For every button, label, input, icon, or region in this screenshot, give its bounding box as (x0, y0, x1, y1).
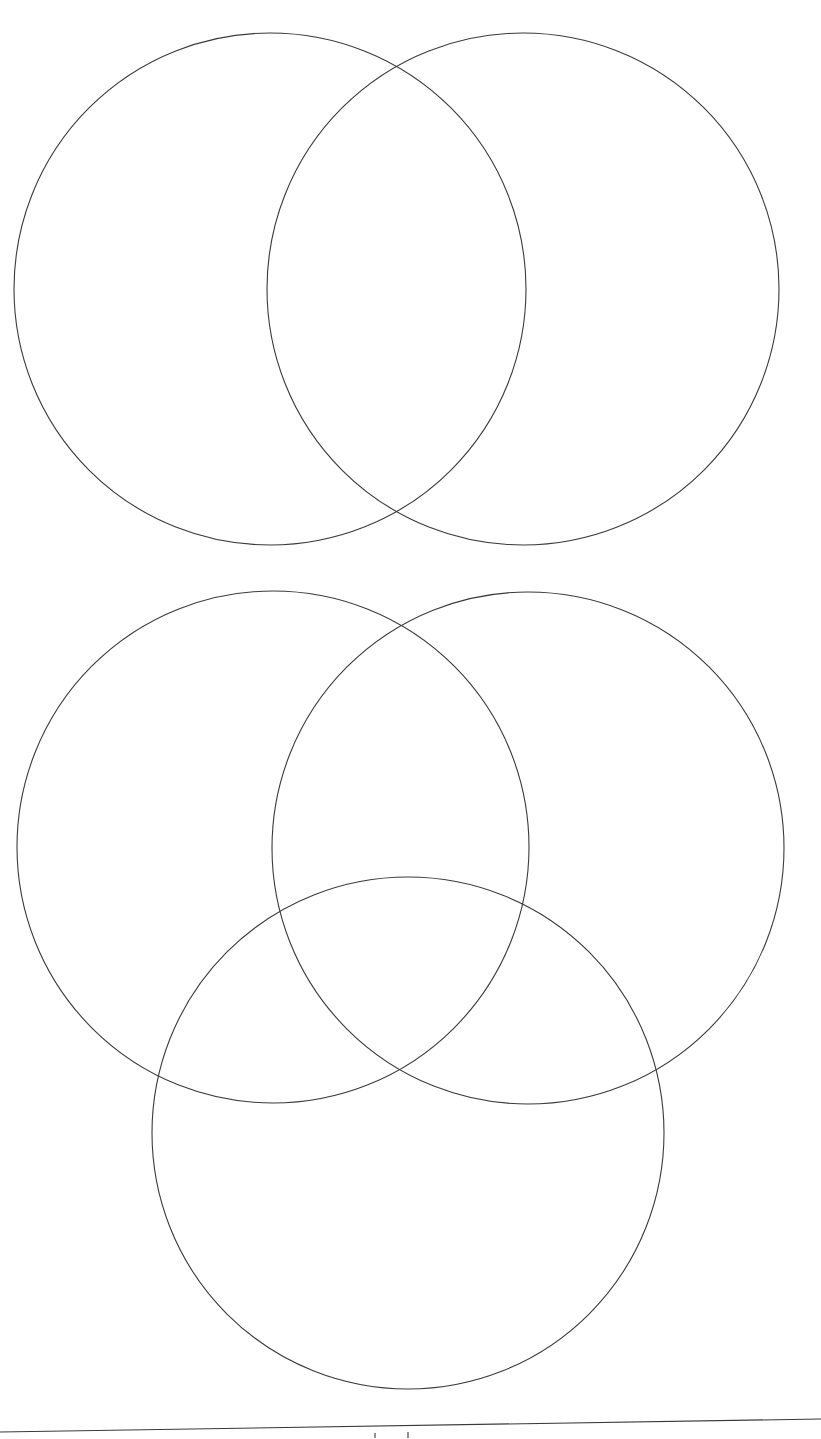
venn-circle-g1-right[interactable] (267, 33, 779, 545)
three-set-venn-group (17, 591, 784, 1389)
two-set-venn-group (14, 33, 779, 545)
footer-rule-line (0, 1419, 821, 1432)
venn-diagram-canvas (0, 0, 821, 1439)
venn-circle-g2-bottom[interactable] (152, 877, 664, 1389)
footer-rule-group (0, 1419, 821, 1438)
venn-circle-g2-top-right[interactable] (272, 592, 784, 1104)
venn-circle-g1-left[interactable] (14, 33, 526, 545)
venn-circle-g2-top-left[interactable] (17, 591, 529, 1103)
worksheet-page (0, 0, 821, 1439)
